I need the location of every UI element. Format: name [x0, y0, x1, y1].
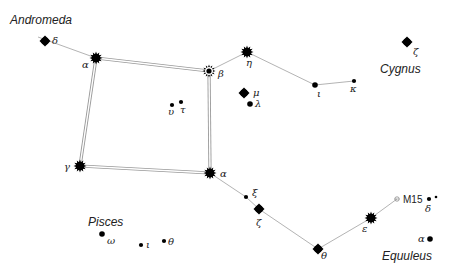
star-cyg-zeta	[402, 37, 413, 48]
star-label-xi: ξ	[252, 187, 258, 198]
star-psc-omega	[99, 231, 105, 237]
star-xi	[244, 195, 248, 199]
star-iota	[312, 82, 318, 88]
star-label-lambda: λ	[254, 98, 261, 109]
constellation-label-pisces: Pisces	[88, 215, 123, 229]
star-chart: δαβηικζμλυτγαξζθεωιθδαM15AndromedaCygnus…	[0, 0, 460, 280]
star-label-alpheratz: α	[82, 59, 89, 70]
square-edge-inner	[80, 166, 210, 173]
star-label-kappa: κ	[349, 83, 357, 94]
star-alpheratz	[90, 52, 103, 65]
star-mu	[239, 88, 250, 99]
star-lambda	[247, 101, 253, 107]
constellation-label-cygnus: Cygnus	[380, 62, 421, 76]
cluster-label: M15	[403, 194, 423, 205]
star-psc-iota	[139, 243, 143, 247]
star-label-theta: θ	[321, 250, 327, 261]
star-psc-theta	[162, 239, 166, 243]
star-label-scheat: β	[217, 68, 224, 79]
star-label-tau: τ	[180, 104, 186, 115]
asterism-line	[247, 52, 315, 85]
square-edge-inner	[209, 71, 210, 173]
star-label-eta: η	[246, 57, 252, 68]
star-label-iota: ι	[317, 88, 321, 99]
star-label-equ-alpha: α	[418, 233, 425, 244]
star-label-equ-delta: δ	[425, 203, 431, 214]
star-label-psc-omega: ω	[107, 235, 115, 246]
star-label-psc-theta: θ	[168, 236, 174, 247]
square-edge-inner	[80, 58, 96, 166]
star-label-algenib: γ	[64, 161, 70, 172]
star-markab	[204, 167, 217, 180]
star-equ-delta	[427, 197, 431, 201]
labels-layer: δαβηικζμλυτγαξζθεωιθδαM15AndromedaCygnus…	[9, 13, 432, 263]
star-algenib	[74, 160, 87, 173]
asterism-line	[210, 173, 246, 197]
star-scheat	[203, 65, 216, 78]
star-equ-delta2	[435, 196, 438, 199]
pegasus-great-square	[80, 58, 210, 173]
constellation-label-equuleus: Equuleus	[382, 249, 432, 263]
asterism-line	[209, 52, 247, 71]
constellation-label-andromeda: Andromeda	[9, 13, 72, 27]
star-label-cyg-zeta: ζ	[413, 46, 419, 57]
star-equ-alpha	[427, 236, 433, 242]
star-label-zeta: ζ	[256, 217, 262, 228]
star-label-epsilon: ε	[362, 223, 367, 234]
star-and-delta	[40, 36, 51, 47]
star-label-psc-iota: ι	[146, 239, 150, 250]
asterism-line	[315, 81, 354, 85]
star-label-and-delta: δ	[52, 35, 58, 46]
square-edge-inner	[96, 58, 209, 71]
globular-cluster-m15-icon	[395, 197, 400, 201]
star-label-mu: μ	[253, 87, 260, 98]
star-label-upsilon: υ	[168, 106, 174, 117]
star-label-markab: α	[220, 168, 227, 179]
asterism-line	[259, 209, 318, 249]
